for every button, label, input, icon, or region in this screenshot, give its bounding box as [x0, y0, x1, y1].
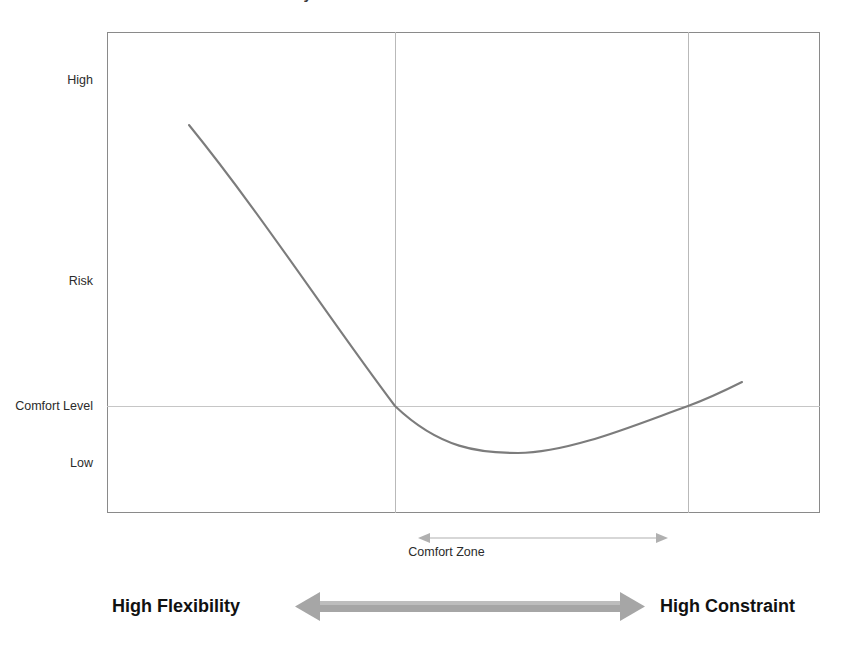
plot-area [107, 32, 820, 513]
y-label-low: Low [70, 457, 93, 470]
chart-title-cropped: Risk vs Flexibility [0, 0, 849, 8]
comfort-zone-label: Comfort Zone [0, 545, 849, 559]
gridline-comfort-level [107, 406, 820, 407]
gridline-comfort-zone-end [688, 32, 689, 513]
flexibility-constraint-arrow [295, 592, 645, 621]
chart-title-text: Risk vs Flexibility [186, 0, 312, 2]
risk-flexibility-chart: Risk vs Flexibility High Risk Comfort Le… [0, 0, 849, 652]
y-label-high: High [67, 74, 93, 87]
caption-high-constraint: High Constraint [660, 596, 795, 617]
y-label-risk: Risk [69, 275, 93, 288]
y-label-comfort-level: Comfort Level [15, 400, 93, 413]
comfort-zone-label-text: Comfort Zone [408, 545, 484, 559]
comfort-zone-arrow [418, 533, 668, 543]
gridline-comfort-zone-start [395, 32, 396, 513]
caption-high-flexibility: High Flexibility [112, 596, 240, 617]
